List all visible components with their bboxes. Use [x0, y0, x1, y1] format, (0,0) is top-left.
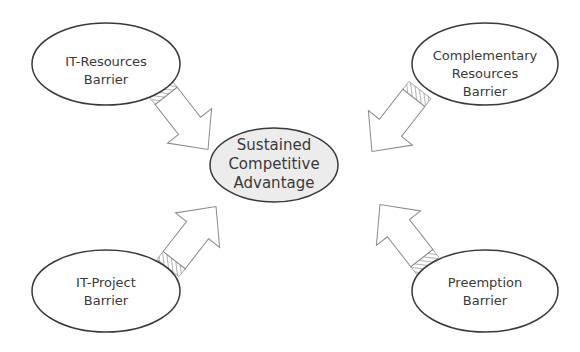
complementary-line-2: Resources — [452, 66, 519, 81]
it-project-line-2: Barrier — [84, 293, 129, 308]
barrier-diagram: Sustained Competitive Advantage IT-Resou… — [0, 0, 580, 352]
node-it-resources-barrier: IT-Resources Barrier — [32, 23, 180, 105]
complementary-line-3: Barrier — [463, 84, 508, 99]
it-resources-line-2: Barrier — [84, 72, 129, 87]
center-line-3: Advantage — [234, 174, 315, 192]
it-resources-line-1: IT-Resources — [65, 54, 147, 69]
center-line-1: Sustained — [237, 136, 311, 154]
preemption-line-2: Barrier — [463, 293, 508, 308]
node-it-project-barrier: IT-Project Barrier — [32, 250, 180, 332]
center-node-sustained-competitive-advantage: Sustained Competitive Advantage — [210, 128, 338, 202]
complementary-line-1: Complementary — [433, 48, 538, 63]
preemption-line-1: Preemption — [448, 275, 522, 290]
node-preemption-barrier: Preemption Barrier — [412, 250, 558, 332]
center-line-2: Competitive — [228, 155, 319, 173]
node-complementary-resources-barrier: Complementary Resources Barrier — [412, 23, 558, 105]
it-project-line-1: IT-Project — [76, 275, 136, 290]
